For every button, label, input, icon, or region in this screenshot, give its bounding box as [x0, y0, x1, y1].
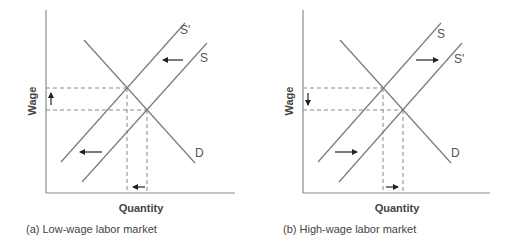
- panel-b: S S' D Quantity Wage (b) High-wage labor…: [283, 10, 490, 235]
- demand-label: D: [195, 146, 204, 160]
- supply-new-label: S': [454, 52, 464, 66]
- supply-curve: [318, 23, 441, 162]
- demand-label: D: [451, 146, 460, 160]
- y-axis-label: Wage: [26, 87, 38, 116]
- supply-new-label: S': [180, 23, 190, 37]
- panel-a: S' S D Quantity Wage (a) Low-wage labor …: [26, 10, 235, 235]
- supply-new-curve: [339, 43, 462, 182]
- x-axis-label: Quantity: [119, 202, 164, 214]
- supply-curve: [82, 43, 207, 182]
- x-axis-label: Quantity: [375, 202, 420, 214]
- caption-b: (b) High-wage labor market: [283, 223, 416, 235]
- supply-new-curve: [61, 23, 185, 162]
- y-axis-label: Wage: [283, 87, 295, 116]
- labor-market-diagrams: S' S D Quantity Wage (a) Low-wage labor …: [0, 0, 517, 239]
- supply-label: S: [200, 51, 208, 65]
- demand-curve: [340, 40, 451, 163]
- demand-curve: [84, 40, 195, 163]
- supply-label: S: [437, 27, 445, 41]
- caption-a: (a) Low-wage labor market: [26, 223, 157, 235]
